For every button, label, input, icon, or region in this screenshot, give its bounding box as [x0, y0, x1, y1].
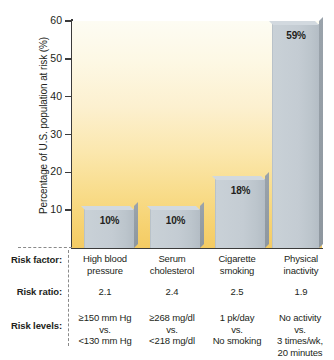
plot-area: 10% 10% 18% 59%	[72, 21, 322, 248]
cell-risk-ratio-3: 2.5	[206, 286, 268, 298]
bar-value-label: 10%	[151, 215, 200, 226]
y-tick-label: 40	[38, 90, 62, 102]
risk-data-table: Risk factor: Risk ratio: Risk levels: Hi…	[0, 250, 334, 360]
cell-risk-levels-2: ≥268 mg/dl vs. <218 mg/dl	[138, 312, 206, 347]
y-tick-mark	[65, 20, 72, 22]
cell-risk-factor-3: Cigarette smoking	[206, 253, 268, 276]
bar-cigarette-smoking: 18%	[215, 179, 265, 248]
bar-top-face	[212, 176, 265, 180]
bar-physical-inactivity: 59%	[272, 24, 319, 248]
bar-value-label: 59%	[273, 30, 319, 41]
y-tick-mark	[65, 96, 72, 98]
cell-risk-levels-3: 1 pk/day vs. No smoking	[203, 312, 271, 347]
row-label-risk-factor: Risk factor:	[0, 254, 62, 265]
y-tick-label: 50	[38, 52, 62, 64]
cell-risk-ratio-2: 2.4	[140, 286, 204, 298]
y-tick-mark	[65, 209, 72, 211]
bar-value-label: 10%	[85, 215, 134, 226]
bar-side-face	[319, 17, 323, 248]
y-tick-label: 60	[38, 14, 62, 26]
bar-top-face	[147, 206, 200, 210]
row-label-risk-levels: Risk levels:	[0, 320, 62, 331]
cell-risk-levels-4: No activity vs. 3 times/wk, 20 minutes	[266, 312, 334, 358]
cell-risk-factor-1: High blood pressure	[74, 253, 136, 276]
bar-value-label: 18%	[216, 185, 265, 196]
bar-side-face	[134, 202, 138, 248]
row-label-risk-ratio: Risk ratio:	[0, 286, 62, 297]
cell-risk-factor-2: Serum cholesterol	[140, 253, 204, 276]
y-tick-label: 30	[38, 128, 62, 140]
cell-risk-factor-4: Physical inactivity	[270, 253, 332, 276]
cell-risk-ratio-1: 2.1	[74, 286, 136, 298]
bar-side-face	[200, 202, 204, 248]
y-tick-label: 10	[38, 203, 62, 215]
risk-factor-bar-chart-figure: Percentage of U.S. population at risk (%…	[0, 0, 334, 360]
bar-high-blood-pressure: 10%	[84, 209, 134, 248]
bar-serum-cholesterol: 10%	[150, 209, 200, 248]
y-tick-mark	[65, 134, 72, 136]
horizontal-dashed-separator	[18, 247, 72, 248]
y-tick-label: 20	[38, 165, 62, 177]
bar-top-face	[269, 21, 319, 25]
cell-risk-ratio-4: 1.9	[270, 286, 332, 298]
y-tick-mark	[65, 172, 72, 174]
bar-top-face	[81, 206, 134, 210]
y-tick-mark	[65, 58, 72, 60]
bar-side-face	[265, 172, 269, 248]
cell-risk-levels-1: ≥150 mm Hg vs. <130 mm Hg	[70, 312, 140, 347]
